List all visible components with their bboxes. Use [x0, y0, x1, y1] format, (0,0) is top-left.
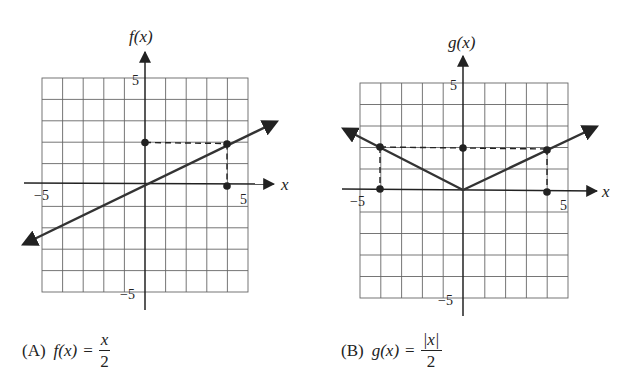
chart-a-caption-fraction: x 2: [99, 331, 111, 370]
chart-b-tick-y-5: 5: [450, 78, 457, 93]
chart-a-caption-lhs: f(x): [54, 341, 78, 361]
chart-a-x-axis-label: x: [280, 175, 289, 194]
chart-b-caption-numerator: |x|: [421, 331, 442, 351]
chart-b-caption: (B) g(x) = |x| 2: [341, 331, 442, 370]
chart-b-point-neg4-0: [376, 185, 384, 193]
chart-b-tick-x-5: 5: [560, 198, 567, 213]
chart-b-y-axis-label: g(x): [448, 33, 476, 52]
chart-b-caption-lhs: g(x): [372, 341, 399, 361]
chart-a-caption-label: (A): [22, 341, 46, 361]
chart-b-caption-denominator: 2: [427, 351, 436, 370]
chart-a-caption-equals: =: [83, 341, 93, 361]
chart-a: f(x) x 5 −5 −5 5: [24, 27, 289, 310]
graphs-canvas: f(x) x 5 −5 −5 5: [0, 0, 626, 379]
chart-b-point-4-0: [543, 188, 551, 196]
chart-a-point-4-2: [223, 140, 231, 148]
chart-a-point-0-2: [141, 139, 149, 147]
chart-b-x-axis-label: x: [601, 182, 610, 201]
chart-a-tick-y-5: 5: [132, 73, 139, 88]
chart-a-tick-y-neg5: −5: [120, 287, 135, 302]
chart-b-point-4-2: [543, 146, 551, 154]
chart-b-tick-y-neg5: −5: [438, 293, 453, 308]
chart-b: g(x) x 5 −5 −5 5: [342, 33, 610, 316]
chart-a-caption-denominator: 2: [100, 351, 109, 370]
chart-a-tick-x-5: 5: [240, 192, 247, 207]
chart-b-point-0-2: [459, 144, 467, 152]
chart-b-point-neg4-2: [376, 143, 384, 151]
chart-a-tick-x-neg5: −5: [34, 188, 49, 203]
chart-a-point-4-0: [223, 182, 231, 190]
chart-b-caption-equals: =: [405, 341, 415, 361]
chart-b-caption-fraction: |x| 2: [421, 331, 442, 370]
chart-a-y-axis-label: f(x): [129, 27, 153, 46]
chart-a-caption: (A) f(x) = x 2: [22, 331, 110, 370]
chart-a-caption-numerator: x: [99, 331, 111, 351]
chart-b-function-line: [344, 127, 596, 190]
chart-b-caption-label: (B): [341, 341, 364, 361]
chart-b-tick-x-neg5: −5: [350, 194, 365, 209]
